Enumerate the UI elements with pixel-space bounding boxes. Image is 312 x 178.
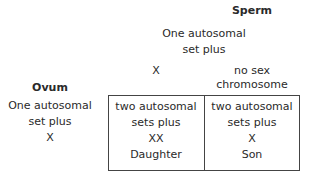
ovum-heading: Ovum: [0, 80, 100, 96]
sperm-option-no-sex-line2: chromosome: [204, 77, 300, 93]
sperm-heading: Sperm: [204, 3, 300, 19]
sperm-description-line2: set plus: [108, 42, 300, 58]
cell-line1: two autosomal: [204, 99, 300, 115]
cell-chromosomes: X: [204, 131, 300, 147]
cell-line2: sets plus: [108, 115, 204, 131]
grid-cell-son: two autosomal sets plus X Son: [204, 99, 300, 163]
ovum-chromosome: X: [2, 130, 98, 146]
sperm-option-x: X: [108, 63, 204, 79]
ovum-description-line2: set plus: [2, 114, 98, 130]
grid-cell-daughter: two autosomal sets plus XX Daughter: [108, 99, 204, 163]
cell-line1: two autosomal: [108, 99, 204, 115]
sperm-description-line1: One autosomal: [108, 26, 300, 42]
ovum-description-line1: One autosomal: [2, 98, 98, 114]
cell-offspring: Daughter: [108, 147, 204, 163]
cell-chromosomes: XX: [108, 131, 204, 147]
cell-offspring: Son: [204, 147, 300, 163]
cell-line2: sets plus: [204, 115, 300, 131]
